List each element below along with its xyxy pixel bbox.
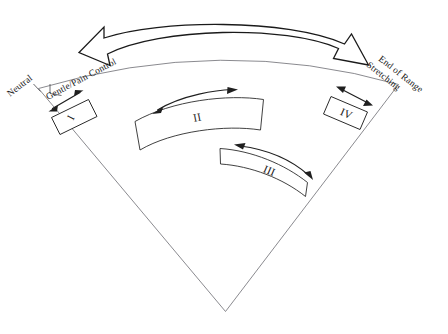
grade-4-arrowhead-left [336, 87, 346, 94]
grade-4-arrow-line [341, 89, 368, 103]
grade-2-arrowhead-right [227, 87, 238, 94]
grade-4-arrowhead-right [363, 100, 373, 107]
sector-outline-group [34, 60, 399, 311]
grade-3-arrowhead-right [304, 171, 313, 180]
sector-diagram: I II III IV [0, 0, 448, 334]
grade-4-group: IV [324, 87, 374, 130]
label-gentle-pain-control: Gentle/Pain Control [44, 56, 118, 102]
grade-3-group: III [220, 143, 313, 197]
grade-3-arrowhead-left [234, 143, 246, 150]
label-neutral: Neutral [5, 73, 34, 99]
grade-2-band [135, 98, 264, 150]
diagram-canvas: I II III IV [0, 0, 448, 334]
grade-1-arrowhead-right [74, 90, 84, 96]
grade-2-group: II [135, 87, 264, 150]
overall-range-ribbon-arrow [79, 24, 369, 65]
